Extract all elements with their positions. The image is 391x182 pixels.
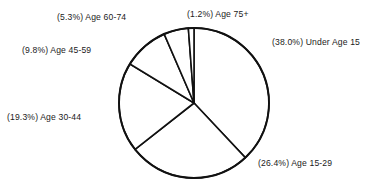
slice-label-under-age-15: (38.0%) Under Age 15 (272, 37, 360, 48)
pie-chart-figure: (5.3%) Age 60-74 (1.2%) Age 75+ (38.0%) … (0, 0, 391, 182)
pie-chart-graphic (0, 0, 391, 182)
slice-label-age-60-74: (5.3%) Age 60-74 (57, 12, 126, 23)
slice-label-age-75-plus: (1.2%) Age 75+ (187, 9, 249, 20)
slice-label-age-15-29: (26.4%) Age 15-29 (258, 158, 332, 169)
slice-label-age-45-59: (9.8%) Age 45-59 (22, 45, 91, 56)
slice-label-age-30-44: (19.3%) Age 30-44 (7, 112, 81, 123)
